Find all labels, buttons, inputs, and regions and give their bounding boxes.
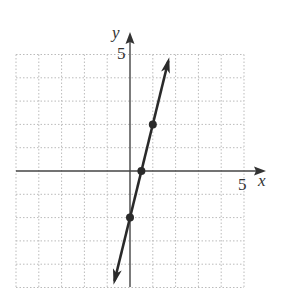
x-tick-label: 5: [238, 176, 247, 193]
data-point: [126, 214, 134, 222]
data-point: [149, 120, 157, 128]
x-axis-label: x: [258, 172, 266, 189]
y-axis-label: y: [112, 24, 120, 41]
data-point: [137, 167, 145, 175]
coordinate-plane: [0, 0, 284, 291]
y-tick-label: 5: [117, 45, 126, 62]
